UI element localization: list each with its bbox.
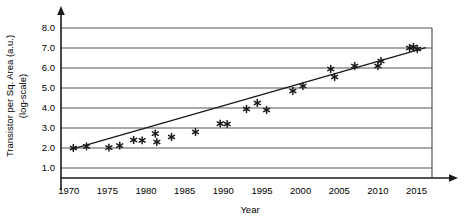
data-point bbox=[224, 121, 230, 128]
y-axis bbox=[57, 6, 65, 190]
y-tick-label: 2.0 bbox=[42, 142, 55, 153]
y-axis-title-line1: Transistor per Sq. Area (a.u.) bbox=[4, 35, 15, 157]
x-tick-label: 2005 bbox=[329, 185, 350, 196]
data-point bbox=[193, 129, 199, 136]
x-tick-label: 1975 bbox=[97, 185, 118, 196]
y-axis-arrowhead bbox=[57, 6, 65, 15]
y-tick-label: 5.0 bbox=[42, 82, 55, 93]
trend-line-segment bbox=[70, 48, 426, 150]
y-tick-label: 4.0 bbox=[42, 102, 55, 113]
data-point bbox=[169, 134, 175, 141]
data-point bbox=[328, 66, 334, 73]
x-tick-label: 1990 bbox=[213, 185, 234, 196]
y-tick-label: 3.0 bbox=[42, 122, 55, 133]
x-axis-arrowhead bbox=[449, 174, 458, 182]
transistor-density-scatter-chart: 1.02.03.04.05.06.07.08.0 197019751980198… bbox=[0, 0, 470, 222]
trend-line bbox=[70, 48, 426, 150]
y-tick-label: 1.0 bbox=[42, 162, 55, 173]
x-axis-tick-labels: 1970197519801985199019952000200520102015 bbox=[58, 185, 427, 196]
x-tick-label: 1980 bbox=[135, 185, 156, 196]
x-axis bbox=[61, 174, 458, 182]
chart-figure: 1.02.03.04.05.06.07.08.0 197019751980198… bbox=[0, 0, 470, 222]
x-tick-label: 1970 bbox=[58, 185, 79, 196]
x-tick-label: 2000 bbox=[290, 185, 311, 196]
x-axis-title: Year bbox=[240, 204, 259, 215]
data-point bbox=[152, 130, 158, 137]
x-tick-label: 2015 bbox=[406, 185, 427, 196]
y-axis-title-line2: (log-scale) bbox=[17, 74, 28, 118]
y-tick-label: 7.0 bbox=[42, 42, 55, 53]
data-point bbox=[254, 100, 260, 107]
y-axis-tick-labels: 1.02.03.04.05.06.07.08.0 bbox=[42, 22, 55, 173]
data-point bbox=[217, 120, 223, 127]
data-point bbox=[139, 137, 145, 144]
y-tick-label: 8.0 bbox=[42, 22, 55, 33]
y-tick-label: 6.0 bbox=[42, 62, 55, 73]
data-point bbox=[131, 137, 137, 144]
x-tick-label: 1995 bbox=[251, 185, 272, 196]
data-point bbox=[244, 106, 250, 113]
data-point bbox=[154, 139, 160, 146]
data-point bbox=[290, 88, 296, 95]
x-tick-label: 2010 bbox=[367, 185, 388, 196]
x-tick-label: 1985 bbox=[174, 185, 195, 196]
